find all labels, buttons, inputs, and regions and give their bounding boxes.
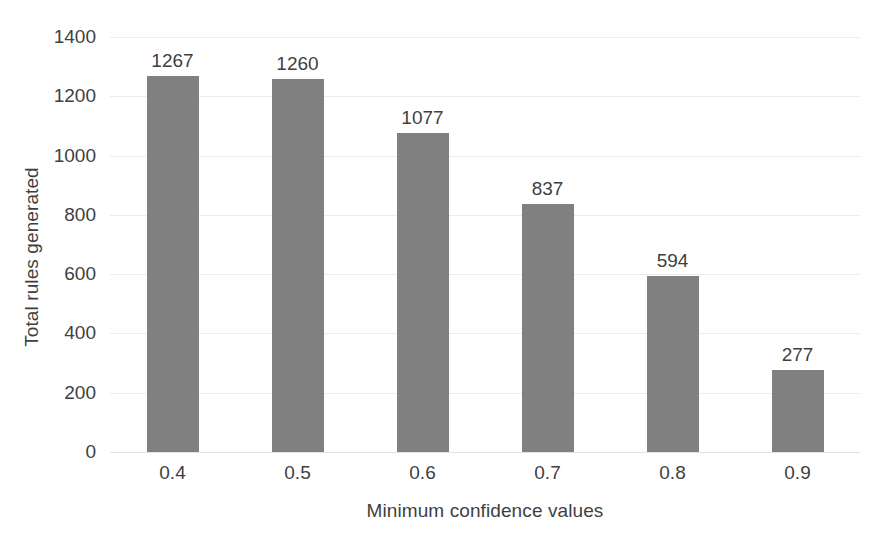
bar-value-label: 594: [657, 250, 689, 272]
gridline: [110, 452, 860, 453]
bar[interactable]: [272, 79, 324, 453]
bar-value-label: 1267: [151, 50, 193, 72]
x-axis-tick-label: 0.8: [659, 462, 685, 484]
bar-group: 837: [485, 37, 610, 452]
bar-value-label: 1260: [276, 53, 318, 75]
bar-value-label: 837: [532, 178, 564, 200]
bar[interactable]: [147, 76, 199, 452]
plot-area: 0200400600800100012001400 12671260107783…: [110, 37, 860, 452]
bar-group: 1260: [235, 37, 360, 452]
bar-group: 1077: [360, 37, 485, 452]
bars: 126712601077837594277: [110, 37, 860, 452]
bar[interactable]: [772, 370, 824, 452]
x-axis-tick-label: 0.6: [409, 462, 435, 484]
bar-value-label: 1077: [401, 107, 443, 129]
bar-group: 594: [610, 37, 735, 452]
bar[interactable]: [397, 133, 449, 452]
bar[interactable]: [522, 204, 574, 452]
x-axis-title: Minimum confidence values: [110, 500, 860, 522]
bar-group: 1267: [110, 37, 235, 452]
x-axis-tick-label: 0.7: [534, 462, 560, 484]
y-axis-title: Total rules generated: [15, 30, 49, 485]
bar-chart: 0200400600800100012001400 12671260107783…: [0, 0, 872, 543]
bar-value-label: 277: [782, 344, 814, 366]
x-axis-tick-label: 0.9: [784, 462, 810, 484]
bar[interactable]: [647, 276, 699, 452]
bar-group: 277: [735, 37, 860, 452]
x-axis-tick-label: 0.5: [284, 462, 310, 484]
x-axis-tick-label: 0.4: [159, 462, 185, 484]
